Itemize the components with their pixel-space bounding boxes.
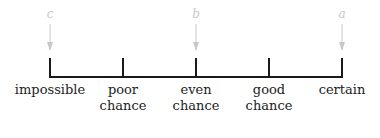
label-even-chance: even chance [156, 82, 236, 114]
label-poor-chance: poor chance [83, 82, 163, 114]
marker-a: a [332, 6, 352, 52]
down-arrow-icon [337, 24, 347, 52]
marker-letter: c [40, 6, 60, 22]
marker-c: c [40, 6, 60, 52]
tick-poor-chance [122, 58, 124, 78]
tick-good-chance [268, 58, 270, 78]
label-certain: certain [302, 82, 380, 98]
label-line: even [156, 82, 236, 98]
down-arrow-icon [45, 24, 55, 52]
label-line: impossible [10, 82, 90, 98]
label-line: poor [83, 82, 163, 98]
marker-letter: b [186, 6, 206, 22]
tick-impossible [49, 58, 51, 78]
label-good-chance: good chance [229, 82, 309, 114]
marker-letter: a [332, 6, 352, 22]
label-line: good [229, 82, 309, 98]
label-line: chance [83, 98, 163, 114]
down-arrow-icon [191, 24, 201, 52]
label-line: chance [156, 98, 236, 114]
probability-scale: impossible poor chance even chance good … [0, 0, 380, 138]
label-line: chance [229, 98, 309, 114]
label-impossible: impossible [10, 82, 90, 98]
tick-even-chance [195, 58, 197, 78]
label-line: certain [302, 82, 380, 98]
marker-b: b [186, 6, 206, 52]
tick-certain [341, 58, 343, 78]
